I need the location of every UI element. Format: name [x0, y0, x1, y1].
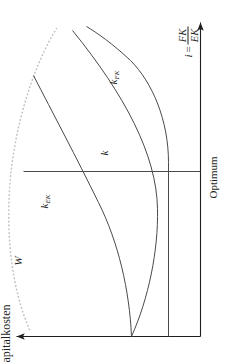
curve-label-k: k	[98, 150, 109, 155]
optimum-label: Optimum	[207, 156, 218, 198]
curve-label-k-fk-base: k	[106, 79, 118, 84]
curve-label-w: W	[12, 256, 23, 265]
x-axis-label-equals: =	[181, 44, 193, 54]
curve-label-k-fk: kFK	[107, 70, 118, 84]
x-axis-label-fraction: FK EK	[176, 26, 199, 43]
curve-label-k-ek: kEK	[38, 194, 49, 208]
curve-label-w-base: W	[11, 256, 23, 265]
curve-w	[8, 28, 56, 329]
curve-label-k-ek-sub: EK	[43, 194, 51, 203]
x-axis-label-denominator: EK	[187, 26, 199, 43]
curve-label-k-ek-base: k	[37, 203, 49, 208]
x-axis-label: i= FK EK	[176, 26, 199, 57]
curve-label-k-fk-sub: FK	[112, 70, 120, 79]
x-axis-label-numerator: FK	[176, 26, 187, 43]
optimum-label-text: Optimum	[206, 156, 218, 198]
y-axis-label-text: apitalkosten	[0, 304, 12, 362]
y-axis-label: apitalkosten	[0, 304, 11, 362]
curve-label-k-base: k	[97, 150, 109, 155]
